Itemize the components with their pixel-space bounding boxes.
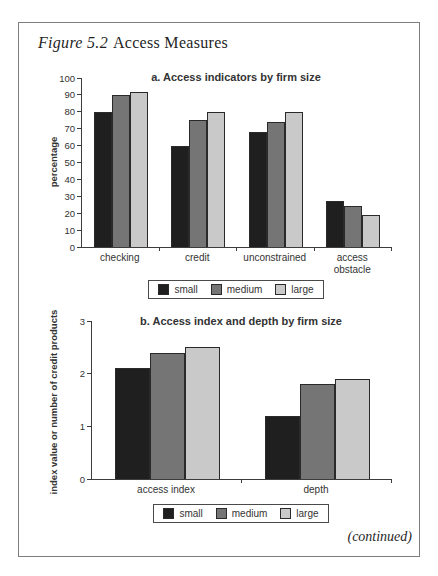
bar-medium-1: [189, 120, 207, 247]
y-axis-tick: [77, 94, 81, 95]
figure-frame: Figure 5.2Access Measures a. Access indi…: [18, 22, 420, 557]
bar-medium-0: [112, 95, 130, 247]
x-axis-tick: [236, 247, 237, 251]
x-axis-tick: [314, 247, 315, 251]
bar-large-1: [335, 379, 370, 479]
bar-medium-1: [300, 384, 335, 479]
y-tick-label: 100: [59, 73, 75, 83]
chart-b-legend: smallmediumlarge: [91, 504, 391, 523]
legend-label-medium: medium: [232, 509, 268, 519]
category-label: depth: [241, 484, 391, 496]
legend-entry-small: small: [158, 284, 197, 295]
bar-small-3: [326, 201, 344, 247]
y-tick-label: 30: [64, 192, 75, 202]
legend-entry-large: large: [280, 508, 318, 519]
figure-caption: Figure 5.2Access Measures: [38, 34, 228, 52]
bar-group: [82, 92, 160, 247]
y-tick-label: 70: [64, 124, 75, 134]
bar-group: [237, 112, 315, 247]
y-axis-tick: [87, 321, 91, 322]
y-axis-tick: [77, 162, 81, 163]
legend-swatch-small: [163, 508, 174, 519]
y-axis-tick: [77, 196, 81, 197]
legend-label-small: small: [179, 509, 202, 519]
y-axis-tick: [87, 373, 91, 374]
y-tick-label: 20: [64, 208, 75, 218]
chart-a-legend: smallmediumlarge: [81, 280, 391, 299]
y-axis-tick: [77, 78, 81, 79]
bar-small-0: [94, 112, 112, 247]
y-axis-tick: [77, 213, 81, 214]
bar-group: [315, 201, 393, 247]
legend-entry-large: large: [275, 284, 313, 295]
y-tick-label: 0: [70, 242, 75, 252]
bar-medium-3: [344, 206, 362, 247]
legend-swatch-medium: [211, 284, 222, 295]
category-label: access index: [91, 484, 241, 496]
legend-label-large: large: [291, 285, 313, 295]
legend-box: smallmediumlarge: [148, 280, 323, 299]
bar-large-3: [362, 215, 380, 247]
chart-a-plot-area: 0102030405060708090100: [81, 78, 392, 248]
y-tick-label: 3: [80, 316, 85, 326]
x-axis-tick: [391, 247, 392, 251]
legend-swatch-large: [280, 508, 291, 519]
figure-title: Access Measures: [113, 34, 228, 51]
y-axis-tick: [87, 426, 91, 427]
legend-label-large: large: [296, 509, 318, 519]
book-page: Figure 5.2Access Measures a. Access indi…: [0, 0, 438, 576]
bar-small-2: [249, 132, 267, 247]
bar-group: [242, 379, 392, 479]
continued-note: (continued): [347, 529, 412, 545]
chart-b-category-labels: access indexdepth: [91, 484, 391, 496]
chart-b-y-axis-label: index value or number of credit products: [48, 310, 59, 495]
legend-swatch-large: [275, 284, 286, 295]
y-tick-label: 60: [64, 141, 75, 151]
y-axis-tick: [77, 111, 81, 112]
y-tick-label: 2: [80, 369, 85, 379]
bar-medium-0: [150, 353, 185, 479]
x-axis-tick: [241, 479, 242, 483]
category-label: credit: [159, 252, 237, 276]
legend-entry-small: small: [163, 508, 202, 519]
chart-b-plot-area: 0123: [91, 321, 392, 480]
y-axis-tick: [77, 230, 81, 231]
y-axis-tick: [77, 145, 81, 146]
x-axis-tick: [159, 247, 160, 251]
bar-small-0: [115, 368, 150, 479]
legend-label-medium: medium: [227, 285, 263, 295]
legend-entry-medium: medium: [216, 508, 268, 519]
category-label: unconstrained: [236, 252, 314, 276]
figure-label: Figure 5.2: [38, 34, 108, 51]
bar-group: [92, 347, 242, 479]
y-axis-tick: [77, 247, 81, 248]
chart-a-y-axis-label: percentage: [48, 137, 59, 188]
bar-groups: [82, 78, 392, 247]
category-label: access obstacle: [314, 252, 392, 276]
y-tick-label: 1: [80, 422, 85, 432]
bar-large-0: [130, 92, 148, 247]
bar-groups: [92, 321, 392, 479]
bar-large-0: [185, 347, 220, 479]
y-tick-label: 90: [64, 90, 75, 100]
y-tick-label: 10: [64, 225, 75, 235]
bar-large-1: [207, 112, 225, 247]
y-axis-tick: [87, 479, 91, 480]
legend-box: smallmediumlarge: [153, 504, 328, 523]
chart-a-category-labels: checkingcreditunconstrainedaccess obstac…: [81, 252, 391, 276]
y-tick-label: 50: [64, 158, 75, 168]
bar-small-1: [171, 146, 189, 247]
y-tick-label: 0: [80, 474, 85, 484]
x-axis-tick: [391, 479, 392, 483]
y-tick-label: 40: [64, 175, 75, 185]
y-axis-tick: [77, 128, 81, 129]
legend-swatch-small: [158, 284, 169, 295]
legend-swatch-medium: [216, 508, 227, 519]
legend-entry-medium: medium: [211, 284, 263, 295]
bar-group: [160, 112, 238, 247]
legend-label-small: small: [174, 285, 197, 295]
bar-medium-2: [267, 122, 285, 247]
bar-large-2: [285, 112, 303, 247]
category-label: checking: [81, 252, 159, 276]
bar-small-1: [265, 416, 300, 479]
